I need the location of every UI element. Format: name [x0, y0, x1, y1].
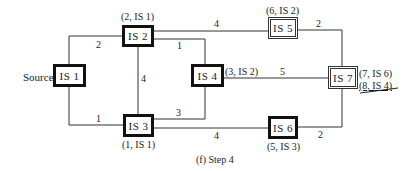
- node-is1-label: IS 1: [59, 70, 79, 82]
- edge-is6-is7: [297, 88, 342, 127]
- weight-is2-is4: 1: [177, 41, 182, 51]
- annotation-is7: (7, IS 6): [359, 68, 392, 79]
- network-diagram: Source IS 1 IS 2 IS 3 IS 4 IS 5 IS 6 IS …: [0, 0, 413, 171]
- weight-is6-is7: 2: [318, 130, 323, 140]
- node-is7-label: IS 7: [333, 72, 353, 84]
- annotation-is4: (3, IS 2): [225, 66, 258, 77]
- node-is7: IS 7: [328, 66, 358, 89]
- node-is6: IS 6: [268, 116, 298, 139]
- source-label: Source: [23, 72, 54, 83]
- weight-is3-is4: 3: [176, 108, 181, 118]
- node-is6-label: IS 6: [273, 122, 293, 134]
- weight-is4-is7: 5: [280, 67, 285, 77]
- node-is2-label: IS 2: [128, 30, 148, 42]
- node-is4-label: IS 4: [197, 70, 217, 82]
- node-is5-label: IS 5: [273, 22, 293, 34]
- annotation-is6: (5, IS 3): [267, 141, 300, 152]
- node-is4: IS 4: [191, 64, 224, 87]
- figure-caption: (f) Step 4: [196, 154, 234, 165]
- weight-is1-is2: 2: [96, 40, 101, 50]
- weight-is2-is5: 4: [214, 19, 219, 29]
- weight-is2-is3: 4: [141, 74, 146, 84]
- annotation-is5: (6, IS 2): [266, 5, 299, 16]
- node-is3: IS 3: [123, 114, 154, 137]
- node-is2: IS 2: [122, 25, 154, 47]
- weight-is1-is3: 1: [96, 114, 101, 124]
- weight-is3-is6: 4: [214, 131, 219, 141]
- node-is5: IS 5: [268, 17, 298, 39]
- weight-is5-is7: 2: [316, 19, 321, 29]
- node-is1: IS 1: [53, 64, 86, 87]
- struck-annotation-is7: (8, IS 4): [359, 80, 392, 91]
- edge-is5-is7: [297, 30, 342, 66]
- annotation-is3: (1, IS 1): [122, 139, 155, 150]
- node-is3-label: IS 3: [128, 120, 148, 132]
- annotation-is2: (2, IS 1): [121, 11, 154, 22]
